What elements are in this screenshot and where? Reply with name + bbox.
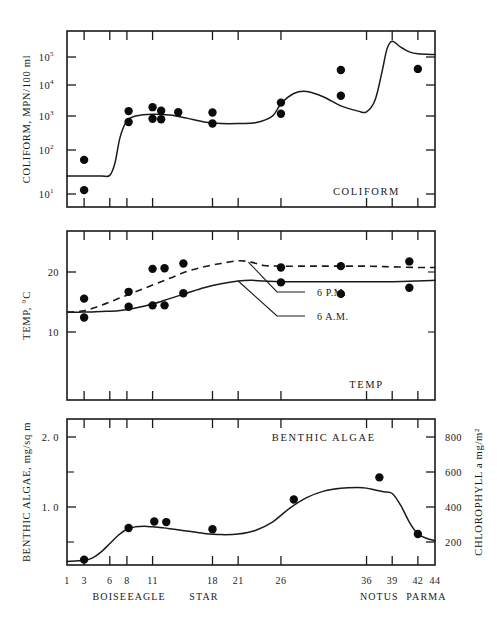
data-point-coliform-9: [208, 108, 216, 116]
series-curve-benthic_algae-0: [67, 488, 435, 562]
x-place-label-eagle: EAGLE: [127, 591, 165, 602]
xaxis-labels: 13681118212636394244BOISEEAGLESTARNOTUSP…: [64, 575, 446, 602]
panel-frame-benthic_algae: [67, 419, 435, 565]
xtick-label-1: 3: [81, 575, 86, 586]
xtick-label-3: 8: [124, 575, 129, 586]
ytick-label-temp-1: 20: [48, 267, 59, 278]
data-point-temp-12: [337, 262, 345, 270]
data-point-temp-10: [277, 263, 285, 271]
ytick-label-coliform-3: 104: [39, 78, 54, 91]
data-point-temp-9: [179, 289, 187, 297]
ytick-label-coliform-0: 101: [39, 187, 54, 200]
data-point-coliform-11: [277, 98, 285, 106]
panel-tag-benthic_algae: BENTHIC ALGAE: [272, 432, 376, 443]
data-point-temp-0: [80, 294, 88, 302]
xtick-label-11: 44: [430, 575, 441, 586]
data-point-temp-7: [160, 301, 168, 309]
data-point-temp-1: [80, 313, 88, 321]
xtick-label-7: 26: [276, 575, 287, 586]
data-point-coliform-5: [148, 115, 156, 123]
ytick-right-label-3: 800: [445, 432, 462, 443]
data-point-coliform-8: [174, 108, 182, 116]
panel-tag-temp: TEMP: [349, 379, 383, 390]
data-point-coliform-0: [80, 156, 88, 164]
xtick-label-8: 36: [361, 575, 372, 586]
x-place-label-star: STAR: [189, 591, 218, 602]
ytick-exponent-0: 1: [50, 187, 54, 195]
ytick-right-label-2: 600: [445, 467, 462, 478]
series-curve-temp-1: [67, 280, 435, 312]
annotation-label-0: 6 P.M.: [317, 287, 346, 298]
data-point-temp-3: [124, 303, 132, 311]
ytick-label-benthic_algae-0: 1. 0: [42, 502, 59, 513]
panel-temp: 10206 P.M.6 A.M.TEMPTEMP, °C: [21, 231, 435, 400]
ytick-exponent-3: 4: [50, 78, 54, 86]
series-curve-coliform-0: [67, 41, 435, 176]
data-point-benthic_algae-5: [290, 495, 298, 503]
x-place-label-notus: NOTUS: [360, 591, 399, 602]
x-place-label-parma: PARMA: [406, 591, 446, 602]
data-point-benthic_algae-1: [124, 524, 132, 532]
xtick-label-6: 21: [233, 575, 244, 586]
data-point-temp-11: [277, 278, 285, 286]
ytick-label-coliform-4: 105: [39, 50, 54, 63]
xtick-label-2: 6: [107, 575, 112, 586]
data-point-temp-5: [148, 301, 156, 309]
xtick-label-9: 39: [387, 575, 398, 586]
ytick-exponent-4: 5: [50, 50, 54, 58]
data-point-coliform-12: [277, 110, 285, 118]
data-point-temp-2: [124, 288, 132, 296]
xtick-label-4: 11: [147, 575, 157, 586]
xtick-label-5: 18: [207, 575, 218, 586]
data-point-temp-4: [148, 265, 156, 273]
data-point-benthic_algae-0: [80, 555, 88, 563]
data-point-coliform-15: [414, 65, 422, 73]
data-point-coliform-10: [208, 119, 216, 127]
data-point-benthic_algae-6: [375, 473, 383, 481]
yaxis-title-temp: TEMP, °C: [21, 291, 32, 340]
ytick-label-temp-0: 10: [48, 327, 59, 338]
x-place-label-boise: BOISE: [93, 591, 127, 602]
ytick-label-coliform-2: 103: [39, 109, 54, 122]
data-point-coliform-13: [337, 66, 345, 74]
data-point-temp-6: [160, 264, 168, 272]
data-point-benthic_algae-4: [208, 525, 216, 533]
yaxis-title-right-benthic_algae: CHLOROPHYLL a mg/m²: [473, 428, 484, 555]
data-point-coliform-4: [148, 103, 156, 111]
panel-coliform: 101102103104105COLIFORMCOLIFORM, MPN/100…: [21, 31, 435, 207]
data-point-benthic_algae-7: [414, 530, 422, 538]
yaxis-title-coliform: COLIFORM, MPN/100 ml: [21, 55, 32, 184]
ytick-label-coliform-1: 102: [39, 143, 54, 156]
ytick-exponent-1: 2: [50, 143, 54, 151]
ytick-right-label-0: 200: [445, 537, 462, 548]
ytick-right-label-1: 400: [445, 502, 462, 513]
yaxis-title-benthic_algae: BENTHIC ALGAE, mg/sq m: [21, 422, 32, 562]
series-curve-temp-0: [67, 261, 435, 312]
data-point-coliform-1: [80, 186, 88, 194]
data-point-temp-15: [405, 284, 413, 292]
annotation-label-1: 6 A.M.: [317, 311, 349, 322]
ytick-label-benthic_algae-1: 2. 0: [42, 432, 59, 443]
three-panel-water-quality-chart: 101102103104105COLIFORMCOLIFORM, MPN/100…: [0, 0, 497, 624]
data-point-coliform-2: [124, 107, 132, 115]
data-point-coliform-6: [157, 107, 165, 115]
data-point-benthic_algae-3: [162, 518, 170, 526]
panel-frame-temp: [67, 231, 435, 400]
data-point-benthic_algae-2: [150, 517, 158, 525]
data-point-coliform-7: [157, 115, 165, 123]
ytick-exponent-2: 3: [50, 109, 54, 117]
figure-container: 101102103104105COLIFORMCOLIFORM, MPN/100…: [0, 0, 497, 624]
data-point-temp-14: [405, 257, 413, 265]
data-point-temp-8: [179, 259, 187, 267]
xtick-label-0: 1: [64, 575, 69, 586]
xtick-label-10: 42: [412, 575, 423, 586]
panel-frame-coliform: [67, 31, 435, 207]
data-point-coliform-14: [337, 92, 345, 100]
panel-tag-coliform: COLIFORM: [333, 186, 400, 197]
data-point-coliform-3: [124, 118, 132, 126]
panel-benthic_algae: 1. 02. 0200400600800BENTHIC ALGAEBENTHIC…: [21, 419, 484, 565]
